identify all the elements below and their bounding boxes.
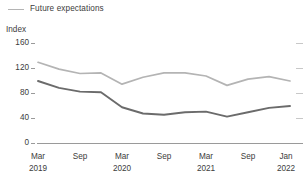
x-tick-label-5-month: Sep	[241, 152, 256, 161]
x-tick-label-6-year: 2022	[277, 164, 296, 173]
y-tick-label-80: 80	[20, 88, 30, 97]
x-tick-label-4-month: Mar	[199, 152, 213, 161]
x-tick-label-6-month: Jan	[279, 152, 293, 161]
x-tick-label-3-month: Sep	[157, 152, 172, 161]
chart-plot-area: 160 120 80 40 0 Mar 2019	[0, 0, 303, 177]
series-line-future-expectations	[38, 62, 290, 85]
y-axis-ticks: 160 120 80 40 0	[15, 38, 35, 147]
right-edge-ticks	[296, 44, 303, 119]
x-tick-label-4-year: 2021	[197, 164, 216, 173]
x-tick-label-1-month: Sep	[73, 152, 88, 161]
y-tick-label-160: 160	[15, 38, 29, 47]
x-tick-label-2-year: 2020	[113, 164, 132, 173]
x-axis-ticks: Mar 2019 Sep Mar 2020 Sep Mar 2021 Sep J…	[29, 152, 296, 173]
y-tick-label-40: 40	[20, 113, 30, 122]
x-tick-label-2-month: Mar	[115, 152, 129, 161]
y-tick-label-120: 120	[15, 63, 29, 72]
y-tick-label-0: 0	[24, 138, 29, 147]
series-line-current-situation	[38, 81, 290, 117]
x-tick-label-0-month: Mar	[31, 152, 45, 161]
x-tick-label-0-year: 2019	[29, 164, 48, 173]
chart-container: Future expectations Index 160 120 80 40 …	[0, 0, 303, 177]
